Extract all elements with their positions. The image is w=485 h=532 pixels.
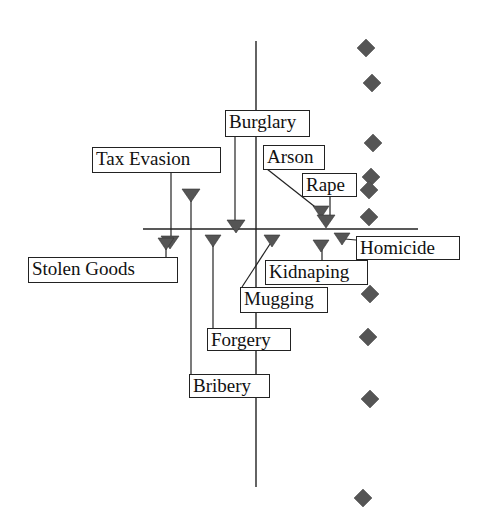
leader-homicide: [345, 239, 356, 240]
diamond-marker: [360, 208, 378, 226]
diamond-marker: [364, 134, 382, 152]
label-mugging: Mugging: [240, 287, 328, 313]
triangle-marker-bribery: [182, 189, 200, 202]
triangle-marker-forgery: [205, 235, 221, 247]
triangle-marker-kidnaping: [313, 240, 329, 252]
triangle-marker-burglary: [227, 220, 245, 233]
label-forgery: Forgery: [207, 328, 291, 351]
triangle-marker-rape: [317, 215, 335, 228]
label-bribery: Bribery: [189, 374, 270, 398]
diamond-marker: [357, 39, 375, 57]
diamond-marker: [363, 74, 381, 92]
diamond-marker: [359, 328, 377, 346]
diamond-marker: [361, 390, 379, 408]
label-rape: Rape: [302, 173, 357, 197]
triangle-markers: [158, 189, 350, 252]
diamond-marker: [360, 181, 378, 199]
label-burglary: Burglary: [225, 110, 310, 137]
label-homicide: Homicide: [356, 236, 460, 260]
label-kidnaping: Kidnaping: [265, 260, 368, 285]
triangle-marker-mugging: [264, 235, 280, 247]
diamond-marker: [354, 489, 372, 507]
label-tax-evasion: Tax Evasion: [92, 147, 221, 173]
diamond-marker: [361, 285, 379, 303]
label-stolen-goods: Stolen Goods: [28, 257, 178, 283]
label-arson: Arson: [263, 145, 325, 170]
